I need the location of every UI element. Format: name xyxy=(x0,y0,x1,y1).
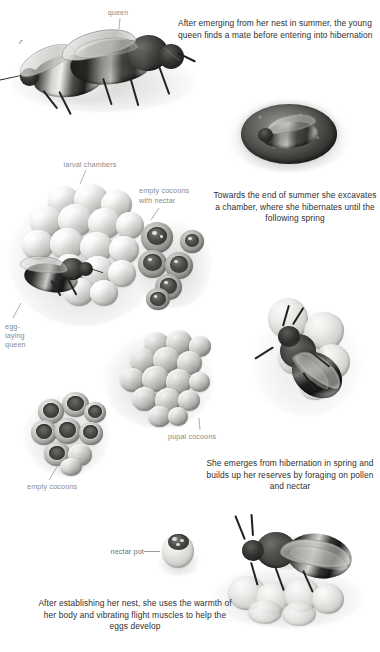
empty-cocoons-illustration xyxy=(24,392,110,478)
nectar-pot-illustration xyxy=(158,532,200,576)
nectar-cocoons-illustration xyxy=(136,218,212,310)
nectar-cocoons-leader xyxy=(148,208,166,224)
queen-leader-line xyxy=(108,18,132,34)
caption-hibernation: Towards the end of summer she excavates … xyxy=(212,190,378,225)
foraging-bee-illustration xyxy=(248,296,364,422)
caption-emergence: She emerges from hibernation in spring a… xyxy=(202,458,378,493)
label-queen: queen xyxy=(95,8,141,17)
label-nectar-pot: nectar pot xyxy=(98,547,144,556)
label-empty-cocoons: empty cocoons xyxy=(27,482,107,491)
nectar-pot-leader xyxy=(144,551,160,552)
brooding-queen-illustration xyxy=(208,514,368,630)
mating-pair-illustration xyxy=(8,18,203,110)
hibernation-chamber-illustration xyxy=(228,96,350,174)
egg-laying-queen-leader xyxy=(10,303,28,321)
pupal-cocoons-leader xyxy=(196,418,208,432)
label-egg-laying-queen-line2: laying xyxy=(5,331,45,340)
caption-mating: After emerging from her nest in summer, … xyxy=(178,18,374,41)
label-pupal-cocoons: pupal cocoons xyxy=(168,432,248,441)
empty-cocoons-leader xyxy=(46,462,64,482)
male-symbol: ♂ xyxy=(17,37,24,47)
label-empty-cocoons-nectar-line2: with nectar xyxy=(139,196,229,205)
label-egg-laying-queen-line1: egg- xyxy=(5,322,45,331)
label-egg-laying-queen-line3: queen xyxy=(5,340,45,349)
pupal-cocoons-illustration xyxy=(104,330,214,430)
illustration-page: queen ♂ After emerging from her nest in … xyxy=(0,0,380,652)
caption-nest-establish: After establishing her nest, she uses th… xyxy=(38,598,232,633)
label-empty-cocoons-nectar-line1: empty cocoons xyxy=(139,186,229,195)
larval-chambers-leader xyxy=(76,170,94,188)
label-larval-chambers: larval chambers xyxy=(45,160,135,169)
mating-caption-leader xyxy=(164,48,186,64)
